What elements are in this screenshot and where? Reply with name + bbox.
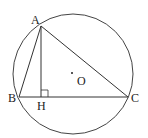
- label-h: H: [37, 99, 46, 113]
- geometry-diagram: A B C H O: [0, 0, 148, 138]
- center-point-o: [71, 72, 73, 74]
- label-b: B: [8, 91, 16, 105]
- label-a: A: [31, 13, 40, 27]
- label-c: C: [131, 91, 139, 105]
- segment-ab: [19, 26, 41, 97]
- label-o: O: [77, 74, 86, 88]
- right-angle-marker: [41, 90, 48, 97]
- circumcircle: [13, 14, 133, 134]
